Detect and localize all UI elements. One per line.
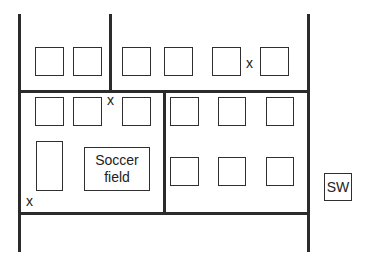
x-marker-top: x [246, 55, 253, 71]
building-top-1 [35, 47, 64, 76]
building-mid-left-2 [73, 97, 102, 126]
building-mid-right-3 [266, 97, 294, 126]
lower-center-vertical-line [163, 90, 166, 214]
building-bottom-right-1 [170, 157, 199, 186]
building-mid-right-2 [218, 97, 246, 126]
building-mid-left-1 [35, 97, 64, 126]
building-mid-left-3 [122, 97, 151, 126]
right-vertical-line [307, 14, 310, 252]
building-top-4 [164, 47, 193, 76]
sw-label: SW [327, 179, 350, 196]
bottom-horizontal-line [18, 212, 310, 215]
building-top-5 [212, 47, 241, 76]
upper-center-vertical-line [109, 14, 112, 92]
building-bottom-right-2 [218, 157, 246, 186]
middle-horizontal-line [18, 90, 310, 93]
x-marker-bottom-left: x [26, 193, 33, 209]
sw-box: SW [324, 173, 352, 201]
building-top-2 [73, 47, 102, 76]
soccer-field: Soccer field [84, 147, 150, 191]
building-top-6 [260, 47, 289, 76]
building-mid-right-1 [170, 97, 199, 126]
building-top-3 [122, 47, 151, 76]
soccer-field-label: Soccer field [95, 152, 139, 186]
x-marker-center: x [107, 92, 114, 108]
building-tall-rect [36, 141, 63, 191]
left-vertical-line [18, 14, 21, 252]
building-bottom-right-3 [266, 157, 294, 186]
